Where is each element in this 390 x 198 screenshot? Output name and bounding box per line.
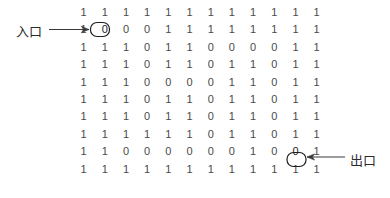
grid-cell: 0 — [115, 21, 136, 38]
grid-cell: 1 — [306, 74, 327, 91]
grid-cell: 1 — [179, 161, 200, 178]
grid-cell: 0 — [264, 143, 285, 160]
grid-cell: 1 — [221, 74, 242, 91]
grid-cell: 1 — [115, 161, 136, 178]
grid-cell: 1 — [306, 126, 327, 143]
grid-cell: 1 — [306, 108, 327, 125]
grid-cell: 1 — [200, 21, 221, 38]
grid-cell: 1 — [73, 56, 94, 73]
grid-cell: 1 — [94, 91, 115, 108]
grid-cell: 1 — [285, 74, 306, 91]
grid-cell: 0 — [137, 143, 158, 160]
grid-cell: 1 — [285, 161, 306, 178]
grid-cell: 1 — [243, 143, 264, 160]
grid-cell: 1 — [115, 91, 136, 108]
grid-cell: 1 — [158, 4, 179, 21]
grid-cell: 0 — [264, 108, 285, 125]
grid-cell: 1 — [221, 91, 242, 108]
grid-cell: 1 — [221, 56, 242, 73]
grid-cell: 1 — [285, 4, 306, 21]
grid-cell: 1 — [264, 4, 285, 21]
digit-grid: 1111111111111000111111111110110000111110… — [73, 4, 327, 178]
grid-cell: 1 — [285, 108, 306, 125]
grid-row: 111011011011 — [73, 91, 327, 108]
grid-cell: 1 — [94, 161, 115, 178]
grid-cell: 1 — [306, 143, 327, 160]
grid-cell: 1 — [115, 4, 136, 21]
grid-cell: 1 — [179, 39, 200, 56]
grid-cell: 1 — [243, 4, 264, 21]
grid-row: 111111011011 — [73, 126, 327, 143]
grid-cell: 1 — [306, 161, 327, 178]
grid-cell: 1 — [158, 108, 179, 125]
grid-cell: 0 — [221, 39, 242, 56]
grid-cell: 1 — [306, 91, 327, 108]
grid-cell: 0 — [264, 126, 285, 143]
grid-cell: 1 — [221, 108, 242, 125]
grid-cell: 1 — [179, 4, 200, 21]
grid-cell: 1 — [73, 21, 94, 38]
grid-cell: 0 — [200, 91, 221, 108]
grid-cell: 1 — [137, 126, 158, 143]
grid-cell: 1 — [158, 56, 179, 73]
grid-cell: 1 — [285, 39, 306, 56]
grid-row: 111000011011 — [73, 74, 327, 91]
grid-cell: 0 — [200, 56, 221, 73]
grid-cell: 1 — [73, 91, 94, 108]
grid-cell: 0 — [200, 143, 221, 160]
grid-cell: 1 — [73, 39, 94, 56]
grid-cell: 1 — [115, 74, 136, 91]
grid-cell: 1 — [200, 161, 221, 178]
grid-cell-marked: 0 — [285, 143, 306, 160]
grid-cell: 1 — [94, 108, 115, 125]
grid-cell: 1 — [221, 161, 242, 178]
grid-cell: 0 — [137, 39, 158, 56]
grid-cell: 1 — [73, 161, 94, 178]
grid-cell: 0 — [179, 143, 200, 160]
grid-cell: 0 — [137, 74, 158, 91]
grid-cell: 0 — [137, 91, 158, 108]
grid-cell: 1 — [73, 143, 94, 160]
grid-row: 111111111111 — [73, 161, 327, 178]
grid-cell-marked: 0 — [94, 21, 115, 38]
grid-cell: 1 — [115, 39, 136, 56]
grid-cell: 0 — [137, 56, 158, 73]
grid-row: 111011011011 — [73, 108, 327, 125]
grid-cell: 1 — [264, 21, 285, 38]
entry-label: 入口 — [16, 21, 42, 40]
grid-cell: 1 — [306, 4, 327, 21]
grid-cell: 1 — [158, 39, 179, 56]
grid-cell: 1 — [94, 74, 115, 91]
grid-cell: 1 — [94, 39, 115, 56]
grid-cell: 0 — [264, 39, 285, 56]
grid-row: 111011011011 — [73, 56, 327, 73]
grid-cell: 1 — [221, 21, 242, 38]
grid-cell: 0 — [200, 108, 221, 125]
exit-label: 出口 — [350, 150, 376, 169]
grid-cell: 0 — [200, 126, 221, 143]
grid-cell: 0 — [264, 91, 285, 108]
grid-cell: 0 — [221, 143, 242, 160]
grid-cell: 1 — [306, 39, 327, 56]
grid-cell: 1 — [158, 21, 179, 38]
grid-cell: 1 — [179, 91, 200, 108]
grid-cell: 0 — [137, 21, 158, 38]
binary-maze-figure: 1111111111111000111111111110110000111110… — [0, 0, 390, 198]
grid-cell: 1 — [73, 4, 94, 21]
grid-cell: 1 — [115, 56, 136, 73]
grid-cell: 1 — [285, 56, 306, 73]
grid-cell: 0 — [264, 74, 285, 91]
grid-cell: 1 — [243, 161, 264, 178]
grid-cell: 1 — [94, 143, 115, 160]
grid-cell: 0 — [264, 56, 285, 73]
grid-cell: 1 — [285, 91, 306, 108]
grid-cell: 0 — [200, 39, 221, 56]
grid-cell: 1 — [94, 4, 115, 21]
grid-cell: 1 — [243, 108, 264, 125]
grid-cell: 1 — [243, 126, 264, 143]
grid-cell: 1 — [158, 91, 179, 108]
grid-cell: 0 — [179, 74, 200, 91]
grid-row: 111111111111 — [73, 4, 327, 21]
grid-row: 111011000011 — [73, 39, 327, 56]
grid-row: 100011111111 — [73, 21, 327, 38]
